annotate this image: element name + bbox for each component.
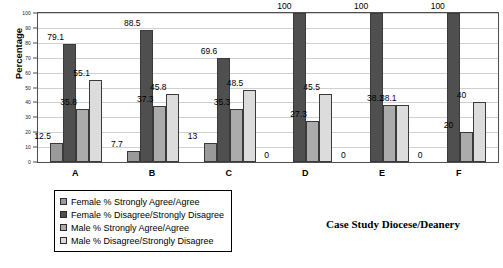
legend-swatch-icon — [60, 237, 67, 244]
y-axis-tick-label: 0 — [28, 160, 31, 165]
bar-value-label: 27.3 — [290, 110, 307, 119]
bar — [460, 132, 473, 162]
bar-value-label: 0 — [341, 151, 346, 160]
bar — [396, 105, 409, 162]
bar-value-label: 45.5 — [303, 83, 320, 92]
x-axis-category-label: C — [209, 168, 249, 178]
plot-area: 12.579.135.855.17.788.537.345.81369.635.… — [37, 12, 499, 163]
gridline — [38, 102, 498, 103]
bar-value-label: 12.5 — [34, 132, 51, 141]
y-axis-tick-label: 70 — [25, 55, 31, 60]
bar-value-label: 88.5 — [124, 19, 141, 28]
chart-figure: 0102030405060708090100 Percentage 12.579… — [0, 0, 503, 268]
bar-value-label: 45.8 — [150, 83, 167, 92]
bar-value-label: 20 — [444, 121, 453, 130]
bar — [243, 90, 256, 162]
legend-item-label: Female % Disagree/Strongly Disagree — [71, 210, 224, 220]
x-axis-category-label: A — [55, 168, 95, 178]
bar — [76, 109, 89, 162]
bar — [319, 94, 332, 162]
bar — [89, 80, 102, 162]
bar — [166, 94, 179, 162]
bar-value-label: 13 — [188, 132, 197, 141]
bar — [306, 121, 319, 162]
y-axis-tick-label: 30 — [25, 115, 31, 120]
bar-value-label: 37.3 — [137, 95, 154, 104]
y-axis-tick-label: 50 — [25, 85, 31, 90]
gridline — [38, 117, 498, 118]
bar-value-label: 100 — [354, 2, 368, 11]
bar-value-label: 0 — [264, 151, 269, 160]
y-axis-tick-label: 40 — [25, 100, 31, 105]
gridline — [38, 147, 498, 148]
bar-value-label: 100 — [277, 2, 291, 11]
x-axis-category-label: D — [285, 168, 325, 178]
chart-legend: Female % Strongly Agree/AgreeFemale % Di… — [54, 190, 232, 252]
gridline — [38, 58, 498, 59]
bar-value-label: 100 — [431, 2, 445, 11]
bar — [230, 109, 243, 162]
x-axis-category-label: F — [439, 168, 479, 178]
bar-value-label: 7.7 — [111, 140, 123, 149]
bar-value-label: 48.5 — [227, 79, 244, 88]
legend-swatch-icon — [60, 211, 67, 218]
gridline — [38, 88, 498, 89]
y-axis-tick-label: 80 — [25, 40, 31, 45]
bar-value-label: 35.3 — [214, 98, 231, 107]
bar — [370, 13, 383, 162]
x-axis-category-label: B — [132, 168, 172, 178]
bar-value-label: 40 — [457, 91, 466, 100]
bar — [50, 143, 63, 162]
legend-item: Female % Strongly Agree/Agree — [60, 195, 224, 208]
bar — [127, 151, 140, 162]
y-axis-tick-label: 90 — [25, 25, 31, 30]
bar — [473, 102, 486, 162]
y-axis-tick-label: 20 — [25, 130, 31, 135]
bar-value-label: 0 — [418, 151, 423, 160]
legend-item: Male % Disagree/Strongly Disagree — [60, 234, 224, 247]
bar-value-label: 38.1 — [380, 94, 397, 103]
bar-value-label: 79.1 — [47, 33, 64, 42]
bar — [153, 106, 166, 162]
gridline — [38, 28, 498, 29]
legend-item: Female % Disagree/Strongly Disagree — [60, 208, 224, 221]
gridline — [38, 43, 498, 44]
bar — [204, 143, 217, 162]
bar-value-label: 35.8 — [60, 98, 77, 107]
legend-item: Male % Strongly Agree/Agree — [60, 221, 224, 234]
gridline — [38, 73, 498, 74]
y-axis-tick-label: 100 — [22, 11, 31, 16]
x-axis-category-label: E — [362, 168, 402, 178]
gridline — [38, 132, 498, 133]
bar — [217, 58, 230, 162]
gridline — [38, 162, 498, 163]
legend-swatch-icon — [60, 224, 67, 231]
x-axis-title: Case Study Diocese/Deanery — [313, 218, 473, 231]
bar-value-label: 69.6 — [201, 47, 218, 56]
y-axis-tick-label: 10 — [25, 145, 31, 150]
legend-swatch-icon — [60, 198, 67, 205]
legend-item-label: Male % Strongly Agree/Agree — [71, 223, 189, 233]
legend-item-label: Female % Strongly Agree/Agree — [71, 197, 200, 207]
bar-value-label: 55.1 — [73, 69, 90, 78]
bar — [383, 105, 396, 162]
bar — [447, 13, 460, 162]
legend-item-label: Male % Disagree/Strongly Disagree — [71, 236, 214, 246]
gridline — [38, 13, 498, 14]
y-axis-tick-label: 60 — [25, 70, 31, 75]
y-axis-title: Percentage — [13, 6, 24, 102]
